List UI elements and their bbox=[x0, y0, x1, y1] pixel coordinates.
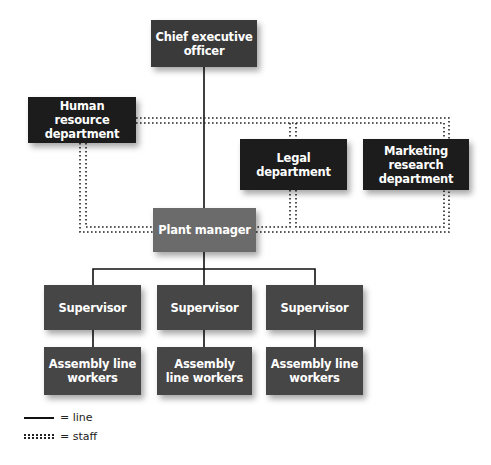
workers-box-1: Assembly line workers bbox=[44, 347, 141, 395]
supervisor-box-3: Supervisor bbox=[266, 285, 363, 330]
legend-line-label: = line bbox=[60, 411, 93, 424]
workers-label: Assembly line workers bbox=[161, 357, 248, 385]
org-chart: Chief executive officer Human resource d… bbox=[0, 0, 491, 465]
supervisor-box-2: Supervisor bbox=[157, 285, 252, 330]
marketing-research-label: Marketing research department bbox=[367, 144, 465, 186]
marketing-research-box: Marketing research department bbox=[363, 139, 469, 190]
legend-line: = line bbox=[24, 411, 93, 424]
ceo-label: Chief executive officer bbox=[155, 30, 253, 58]
legend-staff: = staff bbox=[24, 430, 97, 443]
supervisor-label: Supervisor bbox=[170, 301, 238, 315]
plant-manager-box: Plant manager bbox=[153, 208, 256, 252]
legal-marketing-staff-inner bbox=[296, 190, 444, 227]
legend-staff-label: = staff bbox=[60, 430, 97, 443]
legal-department-box: Legal department bbox=[240, 139, 347, 190]
hr-department-box: Human resource department bbox=[28, 97, 136, 143]
ceo-box: Chief executive officer bbox=[151, 20, 257, 67]
legal-to-plant-manager-staff-left bbox=[256, 190, 290, 227]
workers-box-3: Assembly line workers bbox=[266, 347, 363, 395]
hr-to-plant-manager-staff-outer bbox=[80, 143, 153, 232]
plant-manager-label: Plant manager bbox=[158, 223, 251, 237]
workers-label: Assembly line workers bbox=[270, 357, 359, 385]
workers-label: Assembly line workers bbox=[48, 357, 137, 385]
workers-box-2: Assembly line workers bbox=[157, 347, 252, 395]
supervisor-box-1: Supervisor bbox=[44, 285, 141, 330]
hr-to-marketing-staff-outer bbox=[136, 118, 449, 139]
solid-line-swatch-icon bbox=[24, 417, 54, 419]
supervisor-label: Supervisor bbox=[58, 301, 126, 315]
marketing-to-plant-manager-staff-outer bbox=[256, 190, 449, 232]
legal-department-label: Legal department bbox=[244, 151, 343, 179]
supervisor-label: Supervisor bbox=[280, 301, 348, 315]
hr-department-label: Human resource department bbox=[32, 99, 132, 141]
dotted-line-swatch-icon bbox=[24, 434, 54, 439]
hr-to-plant-manager-staff-inner bbox=[86, 143, 153, 227]
